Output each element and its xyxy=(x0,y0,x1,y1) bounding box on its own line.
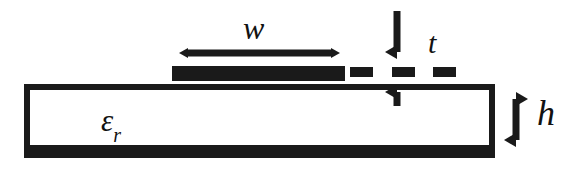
strip-dash-2 xyxy=(392,67,415,77)
microstrip-cross-section-figure: w t h εr xyxy=(0,0,579,173)
permittivity-epsilon-glyph: ε xyxy=(101,103,113,138)
substrate-dielectric-body xyxy=(27,87,492,153)
height-label: h xyxy=(537,95,555,131)
thickness-label: t xyxy=(428,28,436,58)
permittivity-subscript: r xyxy=(113,124,121,146)
strip-dash-1 xyxy=(350,67,373,77)
ground-plane xyxy=(24,145,495,158)
figure-drawing xyxy=(0,0,579,173)
width-label: w xyxy=(243,12,264,44)
strip-conductor xyxy=(172,66,345,81)
permittivity-label: εr xyxy=(101,105,121,141)
strip-dash-3 xyxy=(433,67,456,77)
